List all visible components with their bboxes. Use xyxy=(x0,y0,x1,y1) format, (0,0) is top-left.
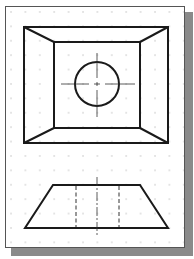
technical-drawing xyxy=(0,0,194,259)
